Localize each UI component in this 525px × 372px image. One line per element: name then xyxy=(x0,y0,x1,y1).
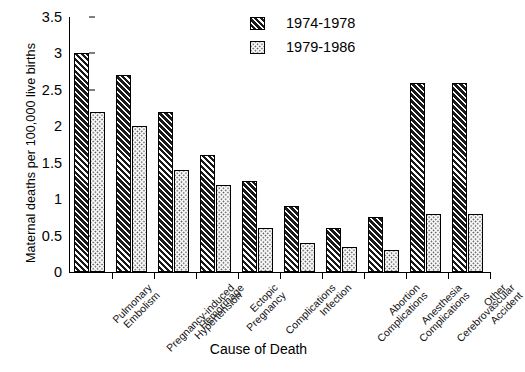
y-axis-ticks: 00.511.522.533.5 xyxy=(26,0,62,372)
bar xyxy=(410,83,426,272)
y-tick-label: 1 xyxy=(54,192,62,207)
x-axis-title: Cause of Death xyxy=(0,341,501,357)
bar xyxy=(284,206,300,272)
y-tick-label: 3 xyxy=(54,46,62,61)
x-tick-mark xyxy=(238,272,239,279)
x-axis-title-text: Cause of Death xyxy=(210,341,307,357)
x-tick-mark xyxy=(322,272,323,279)
bar xyxy=(200,155,216,272)
y-tick-label: 1.5 xyxy=(42,155,62,170)
x-tick-mark xyxy=(448,272,449,279)
bar xyxy=(384,250,400,272)
bar xyxy=(158,112,174,272)
bar xyxy=(258,228,274,272)
y-tick-label: 3.5 xyxy=(42,10,62,25)
bar xyxy=(174,170,190,272)
bar xyxy=(452,83,468,272)
x-tick-mark xyxy=(364,272,365,279)
legend-label-1979-1986: 1979-1986 xyxy=(286,38,355,56)
bar xyxy=(242,181,258,272)
bar xyxy=(90,112,106,272)
bar xyxy=(342,247,358,273)
bar xyxy=(426,214,442,272)
x-tick-mark xyxy=(196,272,197,279)
x-tick-mark xyxy=(154,272,155,279)
bar xyxy=(216,185,232,272)
y-tick-label: 0 xyxy=(54,265,62,280)
bar xyxy=(368,217,384,272)
y-tick-label: 2 xyxy=(54,119,62,134)
y-tick-label: 2.5 xyxy=(42,83,62,98)
x-tick-mark xyxy=(280,272,281,279)
legend-label-1974-1978: 1974-1978 xyxy=(286,14,355,32)
bar xyxy=(300,243,316,272)
bar xyxy=(468,214,484,272)
bar xyxy=(116,75,132,272)
bar xyxy=(132,126,148,272)
bar xyxy=(326,228,342,272)
x-category-label: PulmonaryEmbolism xyxy=(111,282,163,334)
x-tick-mark xyxy=(112,272,113,279)
legend-swatch-hatch-icon xyxy=(250,17,265,30)
bar xyxy=(74,53,90,272)
x-tick-mark xyxy=(490,272,491,279)
legend-swatch-dots-icon xyxy=(250,41,265,54)
x-tick-mark xyxy=(406,272,407,279)
plot-area xyxy=(70,17,490,272)
y-tick-label: 0.5 xyxy=(42,228,62,243)
